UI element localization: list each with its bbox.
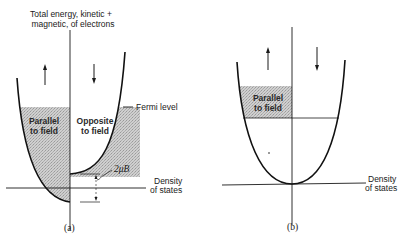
pauli-paramagnetism-diagram: Fermi level Total energy, kinetic + magn… [0,0,402,237]
parallel-label-b-line2: to field [254,103,282,113]
opposite-label-line1: Opposite [77,116,114,126]
density-label-b-line2: of states [365,183,397,193]
parallel-label-b-line1: Parallel [253,93,283,103]
stray-dot [268,152,270,154]
parallel-label-line2: to field [30,126,58,136]
panel-a: Fermi level Total energy, kinetic + magn… [0,9,183,234]
band-opposite-fill [70,52,140,177]
yaxis-label-line1: Total energy, kinetic + [30,9,112,19]
parallel-label-line1: Parallel [29,116,59,126]
fermi-level-label: Fermi level [136,102,178,112]
band-parallel-fill [0,78,70,202]
yaxis-label-line2: magnetic, of electrons [31,19,114,29]
up-arrow-icon [43,64,47,85]
opposite-label-line2: to field [81,126,109,136]
caption-b: (b) [287,222,298,233]
down-arrow-icon [92,64,96,84]
caption-a: (a) [64,223,75,234]
band-curve-b [237,60,345,184]
band-parallel-fill-b [220,62,292,184]
density-label-line2: of states [150,185,182,195]
splitting-label: 2μB [114,164,130,174]
up-arrow-icon-b [266,47,270,70]
down-arrow-icon-b [315,47,319,71]
panel-b: Parallel to field Density of states (b) [220,27,397,233]
